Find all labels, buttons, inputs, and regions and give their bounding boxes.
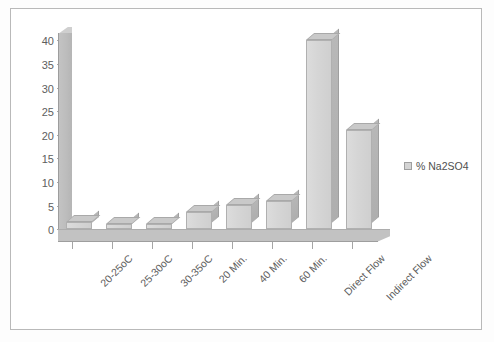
x-label-indirect-flow: Indirect Flow (383, 252, 434, 303)
x-label-60-min: 60 Min. (296, 252, 329, 285)
x-label-40-min: 40 Min. (256, 252, 289, 285)
x-label-30-35oC: 30-35oC (178, 252, 215, 289)
x-label-20-25oC: 20-25oC (98, 252, 135, 289)
legend-label-na2so4: % Na2SO4 (416, 160, 469, 172)
x-label-20-min: 20 Min. (216, 252, 249, 285)
plot-area: 40 35 30 25 20 15 10 5 0 (0, 0, 494, 342)
x-label-25-30oC: 25-30oC (138, 252, 175, 289)
legend-swatch-icon (404, 162, 412, 170)
x-label-direct-flow: Direct Flow (341, 252, 387, 298)
chart-legend: % Na2SO4 (404, 160, 469, 172)
chart-page: 40 35 30 25 20 15 10 5 0 (0, 0, 494, 342)
